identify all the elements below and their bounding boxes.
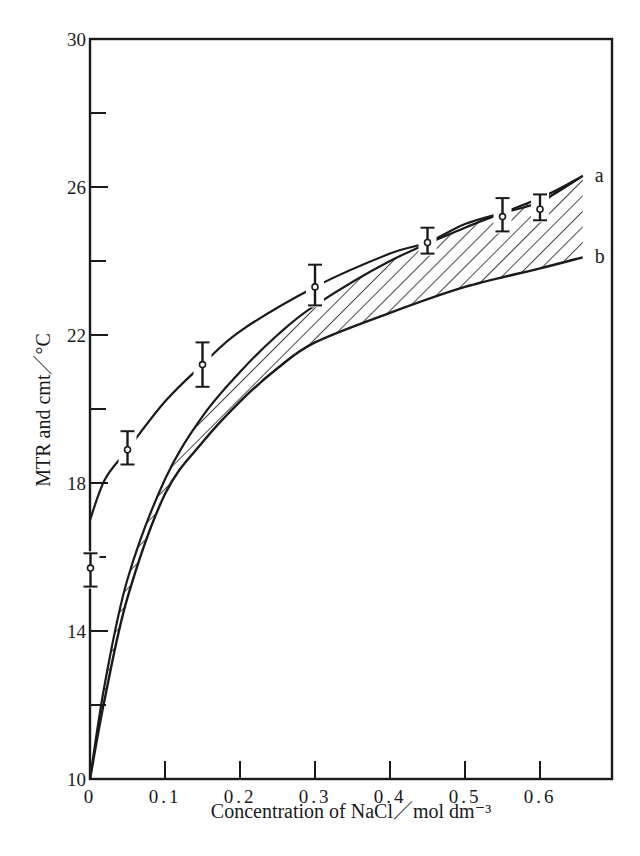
chart: 101418222630 00.10.20.30.40.50.6 ab Conc… [0, 0, 640, 856]
x-tick-label: 0.6 [524, 786, 557, 807]
hatched-band [90, 176, 583, 779]
y-tick-label: 22 [67, 325, 86, 346]
point-marker [425, 240, 431, 246]
point-marker [312, 284, 318, 290]
data-point [494, 196, 512, 233]
y-tick-label: 30 [67, 29, 86, 50]
data-point [419, 226, 437, 256]
plot-border [90, 39, 612, 779]
y-tick-label: 18 [67, 473, 86, 494]
plot-frame [90, 39, 612, 779]
curve-label-a: a [595, 164, 604, 186]
x-tick-label: 0 [84, 786, 97, 807]
y-axis-title: MTR and cmt／°C [32, 333, 54, 487]
data-point [194, 340, 212, 388]
curve-label-b: b [595, 245, 605, 267]
curve-b [90, 257, 583, 779]
data-point [82, 551, 100, 588]
curve-labels: ab [595, 164, 605, 267]
y-tick-label: 26 [67, 177, 86, 198]
point-marker [88, 565, 94, 571]
point-marker [200, 362, 206, 368]
x-tick-label: 0.1 [149, 786, 182, 807]
x-axis-title: Concentration of NaCl／mol dm⁻³ [211, 800, 491, 822]
hatch-fill [90, 176, 583, 779]
point-marker [500, 214, 506, 220]
data-point [306, 263, 324, 308]
y-tick-label: 14 [67, 621, 87, 642]
data-point [119, 429, 137, 466]
data-point [531, 192, 549, 222]
y-axis-ticks: 101418222630 [67, 29, 108, 790]
point-marker [537, 206, 543, 212]
point-marker [125, 447, 131, 453]
chart-canvas: 101418222630 00.10.20.30.40.50.6 ab Conc… [0, 0, 640, 856]
